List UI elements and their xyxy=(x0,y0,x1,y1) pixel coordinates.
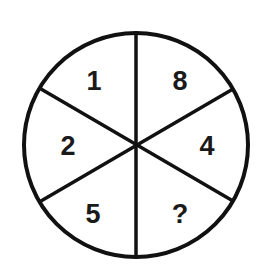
segment-top-right-value: 8 xyxy=(172,66,187,96)
segment-top-left-value: 1 xyxy=(86,66,101,96)
segment-bottom-right-unknown: ? xyxy=(172,199,189,229)
number-wheel-diagram: 1 8 2 4 5 ? xyxy=(0,0,267,275)
segment-bottom-left-value: 5 xyxy=(85,199,100,229)
segment-middle-right-value: 4 xyxy=(199,131,214,161)
segment-middle-left-value: 2 xyxy=(60,131,75,161)
